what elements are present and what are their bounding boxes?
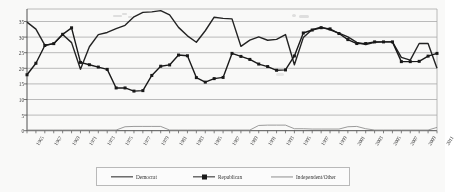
series-marker-republican bbox=[275, 69, 278, 72]
series-marker-republican bbox=[418, 60, 421, 63]
series-marker-republican bbox=[257, 63, 260, 66]
legend-label-democrat: Democrat bbox=[136, 174, 157, 180]
series-marker-republican bbox=[382, 40, 385, 43]
series-marker-republican bbox=[79, 61, 82, 64]
legend-line-republican-icon bbox=[193, 173, 215, 181]
series-marker-republican bbox=[231, 52, 234, 55]
legend-label-republican: Republican bbox=[218, 174, 242, 180]
series-marker-republican bbox=[52, 42, 55, 45]
series-line-democrat bbox=[27, 11, 437, 70]
series-marker-republican bbox=[61, 33, 64, 36]
series-marker-republican bbox=[97, 66, 100, 69]
series-marker-republican bbox=[159, 65, 162, 68]
series-marker-republican bbox=[436, 52, 439, 55]
series-layer bbox=[26, 11, 439, 130]
series-marker-republican bbox=[373, 40, 376, 43]
series-marker-republican bbox=[150, 74, 153, 77]
series-marker-republican bbox=[34, 62, 37, 65]
legend-label-independent: Independent/Other bbox=[296, 174, 336, 180]
series-marker-republican bbox=[266, 65, 269, 68]
series-marker-republican bbox=[70, 26, 73, 29]
series-marker-republican bbox=[409, 60, 412, 63]
series-marker-republican bbox=[106, 68, 109, 71]
series-marker-republican bbox=[391, 40, 394, 43]
series-marker-republican bbox=[329, 27, 332, 30]
series-marker-republican bbox=[132, 90, 135, 93]
series-marker-republican bbox=[364, 42, 367, 45]
legend-line-independent-icon bbox=[271, 173, 293, 181]
series-line-independent-other bbox=[27, 125, 437, 130]
scan-artifact bbox=[276, 73, 284, 76]
gridlines bbox=[27, 22, 437, 116]
series-marker-republican bbox=[195, 76, 198, 79]
series-marker-republican bbox=[293, 54, 296, 57]
series-marker-republican bbox=[213, 77, 216, 80]
series-marker-republican bbox=[400, 60, 403, 63]
series-marker-republican bbox=[302, 31, 305, 34]
series-marker-republican bbox=[427, 55, 430, 58]
scan-artifact bbox=[113, 15, 122, 17]
series-marker-republican bbox=[320, 26, 323, 29]
series-marker-republican bbox=[26, 73, 29, 76]
series-marker-republican bbox=[346, 38, 349, 41]
legend-entry-independent: Independent/Other bbox=[271, 172, 336, 182]
x-axis-label-2011: 2011 bbox=[445, 135, 455, 146]
series-marker-republican bbox=[168, 63, 171, 66]
series-marker-republican bbox=[355, 42, 358, 45]
series-marker-republican bbox=[204, 81, 207, 84]
scan-artifact bbox=[122, 13, 127, 15]
scan-artifact bbox=[292, 14, 296, 17]
series-marker-republican bbox=[311, 29, 314, 32]
legend-entry-democrat: Democrat bbox=[111, 172, 157, 182]
scan-artifact bbox=[299, 15, 309, 18]
series-marker-republican bbox=[88, 63, 91, 66]
series-marker-republican bbox=[141, 89, 144, 92]
series-marker-republican bbox=[222, 76, 225, 79]
series-marker-republican bbox=[284, 68, 287, 71]
series-marker-republican bbox=[115, 86, 118, 89]
legend-line-democrat-icon bbox=[111, 173, 133, 181]
series-marker-republican bbox=[239, 55, 242, 58]
series-marker-republican bbox=[248, 58, 251, 61]
series-marker-republican bbox=[186, 54, 189, 57]
legend-entry-republican: Republican bbox=[193, 172, 242, 182]
series-marker-republican bbox=[177, 54, 180, 57]
series-marker-republican bbox=[124, 86, 127, 89]
chart-legend: Democrat Republican Independent/Other bbox=[96, 167, 350, 186]
series-marker-republican bbox=[337, 32, 340, 35]
series-marker-republican bbox=[43, 44, 46, 47]
scan-artifact bbox=[128, 16, 132, 18]
